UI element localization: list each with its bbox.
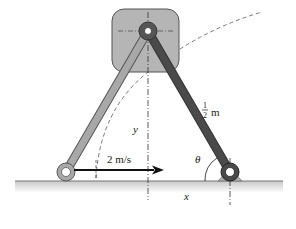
top-pivot-pin xyxy=(145,28,152,35)
right-link-fill xyxy=(148,31,230,172)
label-velocity: 2 m/s xyxy=(107,153,131,165)
left-link-fill xyxy=(66,31,148,172)
mechanism-diagram: y 1 2 m 2 m/s θ x xyxy=(0,0,296,229)
label-theta: θ xyxy=(195,153,201,165)
ground-surface xyxy=(15,181,283,193)
angle-arc xyxy=(205,158,217,181)
right-collar-hole xyxy=(226,168,235,177)
label-length-denominator: 2 xyxy=(203,111,207,120)
label-length-numerator: 1 xyxy=(203,101,207,110)
label-length-unit: m xyxy=(211,106,220,118)
label-y: y xyxy=(132,123,138,135)
label-x: x xyxy=(183,190,189,202)
left-collar-hole xyxy=(62,168,71,177)
